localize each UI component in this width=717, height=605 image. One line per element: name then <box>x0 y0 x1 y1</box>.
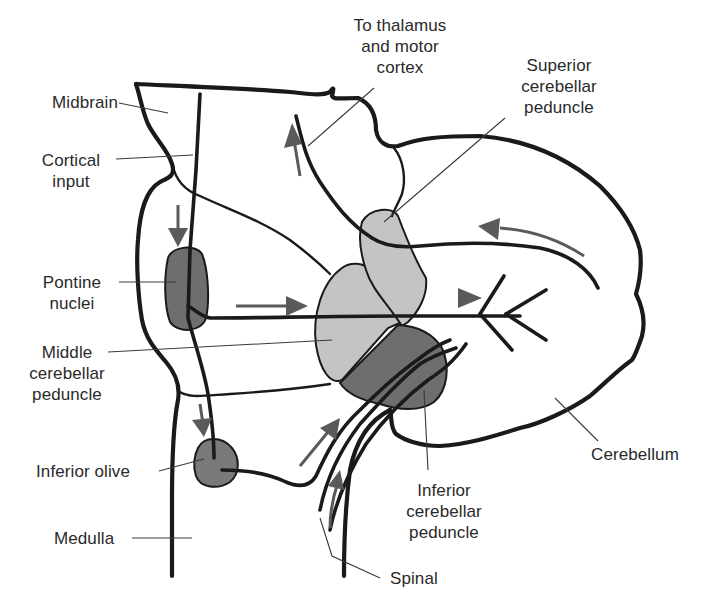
inferior-olive-region <box>194 439 238 487</box>
pons-medulla-boundary <box>180 384 330 396</box>
label-to-thalamus: To thalamus and motor cortex <box>340 15 460 78</box>
label-pontine-nuclei: Pontine nuclei <box>28 272 116 314</box>
label-inferior-olive: Inferior olive <box>36 461 130 482</box>
leader-cortical-input <box>116 155 193 159</box>
label-medulla: Medulla <box>54 528 114 549</box>
fiber-branch-lower-1 <box>480 314 512 350</box>
arrow-cerebellum-right <box>458 288 482 308</box>
arrow-pontine-right <box>236 296 308 316</box>
label-cerebellum: Cerebellum <box>591 444 679 465</box>
label-cortical-input: Cortical input <box>28 150 114 192</box>
arrow-cortical-down <box>168 205 188 247</box>
label-middle-cerebellar-peduncle: Middle cerebellar peduncle <box>18 342 116 405</box>
label-superior-cerebellar-peduncle: Superior cerebellar peduncle <box>504 55 614 118</box>
fiber-branch-upper-1 <box>480 276 504 314</box>
label-spinal: Spinal <box>390 568 438 589</box>
fiber-branch-upper-2 <box>506 290 546 314</box>
fiber-branch-lower-2 <box>506 314 546 340</box>
leader-middle-cerebellar-peduncle <box>108 340 332 352</box>
arrow-cerebellar-cortex-left <box>478 218 584 256</box>
thalamic-output-tract <box>296 116 372 238</box>
label-inferior-cerebellar-peduncle: Inferior cerebellar peduncle <box>394 480 494 543</box>
label-midbrain: Midbrain <box>28 92 118 113</box>
